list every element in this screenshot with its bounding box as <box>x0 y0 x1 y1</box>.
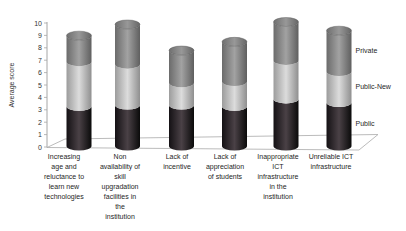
cylinder-cap <box>115 20 140 29</box>
category-label-line: age and <box>34 162 94 172</box>
chart-figure: Average score 012345678910 Increasingage… <box>0 0 406 231</box>
cylinder-cap <box>67 31 92 40</box>
cylinder-bar-5 <box>274 18 299 151</box>
category-label-2: Nonavailability ofskillupgradationfacili… <box>90 152 150 222</box>
y-tick-label: 9 <box>38 32 42 39</box>
category-label-line: of students <box>195 172 255 182</box>
category-label-line: Increasing <box>34 152 94 162</box>
legend-label-private: Private <box>356 47 378 54</box>
category-label-line: Lack of <box>195 152 255 162</box>
category-label-line: the <box>90 202 150 212</box>
segment-private <box>169 51 194 88</box>
category-label-line: ICT <box>248 162 308 172</box>
category-label-line: infrastructure <box>301 162 361 172</box>
segment-public <box>169 105 194 150</box>
category-label-6: Unreliable ICTinfrastructure <box>301 152 361 172</box>
category-label-line: availability of <box>90 162 150 172</box>
category-label-line: skill <box>90 172 150 182</box>
y-tick-label: 3 <box>38 106 42 113</box>
category-label-line: Inappropriate <box>248 152 308 162</box>
category-label-line: in the <box>248 182 308 192</box>
cylinder-cap <box>327 26 352 35</box>
category-label-line: Non <box>90 152 150 162</box>
category-label-line: institution <box>248 192 308 202</box>
category-label-line: appreciation <box>195 162 255 172</box>
y-tick-label: 10 <box>34 20 42 27</box>
cylinder-cap <box>274 18 299 27</box>
category-label-5: InappropriateICTinfrastructurein theinst… <box>248 152 308 202</box>
cylinder-bar-6 <box>327 26 352 150</box>
segment-public <box>327 103 352 151</box>
segment-public-new <box>327 72 352 108</box>
segment-public <box>67 106 92 150</box>
segment-public <box>222 106 247 150</box>
y-tick-label: 0 <box>38 144 42 151</box>
legend-label-public-new: Public-New <box>356 83 391 90</box>
category-label-line: institution <box>90 212 150 222</box>
y-tick-label: 8 <box>38 44 42 51</box>
segment-public <box>274 99 299 151</box>
legend-label-public: Public <box>356 120 375 127</box>
segment-public-new <box>274 60 299 103</box>
category-label-line: technologies <box>34 192 94 202</box>
segment-public-new <box>115 64 140 109</box>
category-label-line: infrastructure <box>248 172 308 182</box>
category-label-1: Increasingage andreluctance tolearn newt… <box>34 152 94 202</box>
y-tick-label: 4 <box>38 94 42 101</box>
cylinder-bar-2 <box>115 20 140 151</box>
cylinder-bar-4 <box>222 37 247 150</box>
segment-public-new <box>67 62 92 111</box>
segment-private <box>222 42 247 86</box>
category-label-line: reluctance to <box>34 172 94 182</box>
category-label-line: facilities in <box>90 192 150 202</box>
category-label-4: Lack ofappreciationof students <box>195 152 255 182</box>
segment-private <box>274 22 299 65</box>
category-label-line: upgradation <box>90 182 150 192</box>
category-label-line: learn new <box>34 182 94 192</box>
category-label-line: Unreliable ICT <box>301 152 361 162</box>
segment-private <box>327 31 352 76</box>
y-tick-label: 6 <box>38 69 42 76</box>
cylinder-bar-3 <box>169 46 194 150</box>
y-tick-label: 1 <box>38 131 42 138</box>
cylinder-cap <box>222 37 247 46</box>
y-tick-label: 7 <box>38 57 42 64</box>
cylinder-bar-1 <box>67 31 92 150</box>
cylinder-cap <box>169 46 194 55</box>
segment-public <box>115 105 140 150</box>
y-tick-label: 5 <box>38 82 42 89</box>
y-tick-label: 2 <box>38 119 42 126</box>
segment-private <box>115 24 140 68</box>
